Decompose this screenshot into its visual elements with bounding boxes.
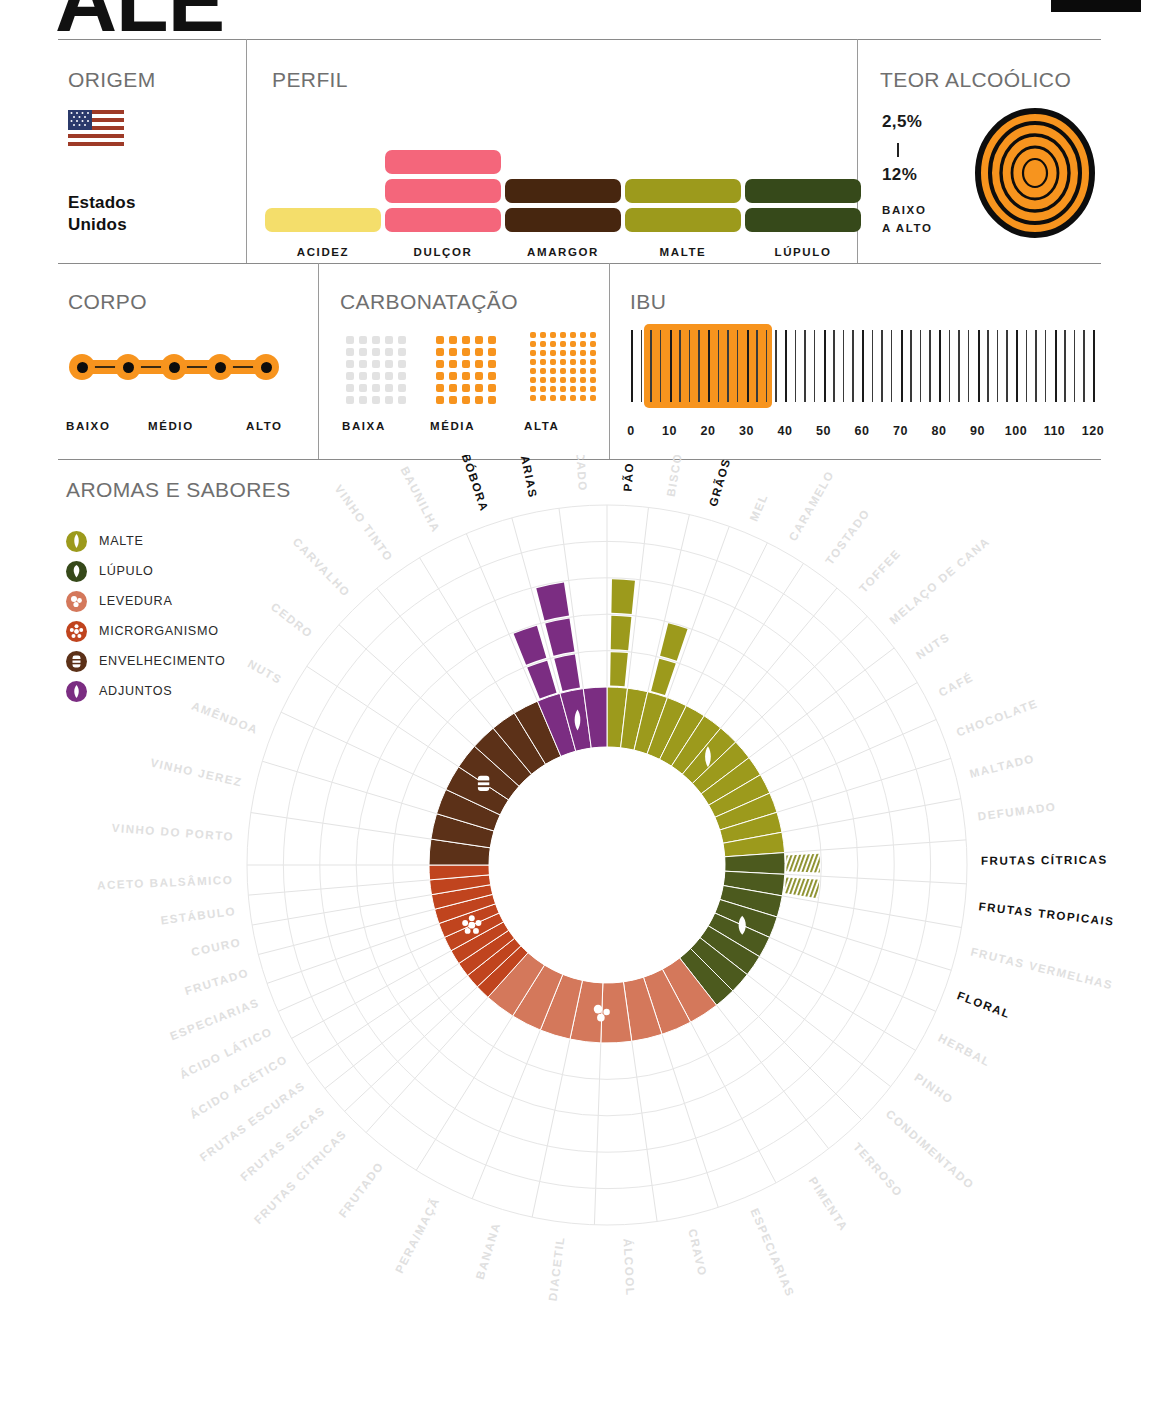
carbonatacao-dot <box>590 368 596 374</box>
wheel-label: FLORAL <box>956 989 1013 1021</box>
ibu-tick-label: 110 <box>1039 424 1071 438</box>
perfil-bar-label: LÚPULO <box>745 246 861 258</box>
carbonatacao-dot <box>462 396 470 404</box>
divider-carb-ibu <box>609 263 610 459</box>
ibu-tick <box>650 330 651 402</box>
origin-country-line2: Unidos <box>68 214 136 236</box>
carbonatacao-dot <box>540 368 546 374</box>
carbonatacao-dot <box>359 348 367 356</box>
wheel-label: FRUTAS CÍTRICAS <box>981 853 1108 867</box>
ibu-tick <box>631 330 633 402</box>
carbonatacao-dot <box>488 372 496 380</box>
carbonatacao-dot <box>540 377 546 383</box>
ibu-tick <box>814 330 815 402</box>
carbonatacao-dot <box>488 360 496 368</box>
carbonatacao-dot <box>436 336 444 344</box>
ibu-tick <box>689 330 690 402</box>
wheel-label: GRÃOS <box>706 456 733 508</box>
perfil-bar-segment <box>625 208 741 232</box>
panel-title-teor-alcoolico: TEOR ALCOÓLICO <box>880 68 1071 92</box>
carbonatacao-dot <box>590 395 596 401</box>
perfil-bar-segment <box>265 208 381 232</box>
carbonatacao-dot <box>530 377 536 383</box>
wheel-label: COURO <box>190 935 242 958</box>
carbonatacao-dot <box>462 348 470 356</box>
ibu-tick <box>987 330 988 402</box>
carbonatacao-dot <box>540 341 546 347</box>
carbonatacao-dot <box>398 336 406 344</box>
divider-corpo-carb <box>318 263 319 459</box>
divider-mid <box>58 263 1101 264</box>
carbonatacao-dot <box>560 386 566 392</box>
wheel-label: TERROSO <box>851 1140 906 1199</box>
carbonatacao-dot <box>540 386 546 392</box>
wheel-label: PERA/MAÇÃ <box>392 1195 442 1275</box>
wheel-label: MEL <box>747 491 770 523</box>
wheel-grid-radial <box>252 895 431 925</box>
ibu-scale <box>631 330 1096 405</box>
carbonatacao-dot <box>560 332 566 338</box>
wheel-grid-radial <box>251 813 431 840</box>
perfil-bar-segment <box>505 208 621 232</box>
carbonatacao-dot <box>570 368 576 374</box>
carbonatacao-dot <box>398 396 406 404</box>
carbonatacao-dot <box>346 396 354 404</box>
wheel-center-hole <box>489 747 725 983</box>
carbonatacao-dot <box>570 359 576 365</box>
wheel-label: VINHO TINTO <box>332 482 396 564</box>
ibu-tick-label: 60 <box>846 424 878 438</box>
carbonatacao-dot <box>550 341 556 347</box>
wheel-grid-radial <box>747 975 890 1087</box>
ibu-tick <box>670 330 672 402</box>
ibu-tick <box>901 330 903 402</box>
carbonatacao-dot <box>488 384 496 392</box>
carbonatacao-dot <box>530 395 536 401</box>
carbonatacao-dot <box>475 348 483 356</box>
page-title: ALE <box>55 0 224 44</box>
wheel-label: ESPECIARIAS <box>509 455 541 500</box>
carbonatacao-dot <box>475 372 483 380</box>
carbonatacao-dot <box>436 372 444 380</box>
carbonatacao-dot <box>359 396 367 404</box>
ibu-tick <box>1045 330 1046 402</box>
carbonatacao-dot <box>462 336 470 344</box>
carbonatacao-dot <box>385 336 393 344</box>
corpo-scale-label: BAIXO <box>66 420 110 432</box>
wheel-label: CRAVO <box>686 1228 710 1278</box>
corpo-dot[interactable] <box>77 362 88 373</box>
corpo-dot[interactable] <box>123 362 134 373</box>
ibu-tick <box>775 330 776 402</box>
carbonatacao-dot <box>550 332 556 338</box>
wheel-label: PINHO <box>912 1070 956 1106</box>
carbonatacao-dot <box>449 384 457 392</box>
carbonatacao-dot <box>570 386 576 392</box>
carbonatacao-dot <box>530 386 536 392</box>
wheel-grid-radial <box>281 712 446 789</box>
panel-title-ibu: IBU <box>630 290 666 314</box>
ibu-tick <box>939 330 941 402</box>
corpo-dot[interactable] <box>169 362 180 373</box>
carbonatacao-dot <box>372 360 380 368</box>
carbonatacao-dot <box>462 384 470 392</box>
carbonatacao-dot <box>462 372 470 380</box>
carbonatacao-dot <box>570 350 576 356</box>
ibu-tick-label: 20 <box>692 424 724 438</box>
carbonatacao-dot <box>560 395 566 401</box>
corpo-dot[interactable] <box>261 362 272 373</box>
carbonatacao-dot <box>550 368 556 374</box>
infographic-page: ALE ORIGEM Estados Unidos PERFIL ACIDEZD… <box>0 0 1159 1422</box>
wheel-ray <box>611 616 632 650</box>
ibu-tick <box>679 330 680 402</box>
wheel-grid-radial <box>345 987 478 1112</box>
carbonatacao-dot <box>449 336 457 344</box>
corpo-dot[interactable] <box>215 362 226 373</box>
carbonatacao-dot <box>560 368 566 374</box>
ibu-tick <box>785 330 787 402</box>
perfil-bar-segment <box>745 208 861 232</box>
wheel-label: FRUTADO <box>183 965 250 997</box>
ibu-tick <box>1035 330 1036 402</box>
ibu-tick-label: 10 <box>654 424 686 438</box>
carbonatacao-dot <box>488 348 496 356</box>
wheel-label: ESTÁBULO <box>160 904 237 926</box>
wheel-label: MALTADO <box>968 751 1036 780</box>
